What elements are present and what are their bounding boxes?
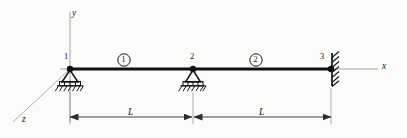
element-1-label: 1 [122, 56, 126, 64]
node-1-dot[interactable] [67, 66, 73, 72]
node-3-label: 3 [320, 52, 324, 61]
node-1-ground-hatching [55, 86, 83, 91]
beam-diagram-figure: 1 2 3 1 2 y x z L L [0, 0, 407, 138]
dimension-label-span-2: L [259, 108, 264, 118]
y-axis-label: y [72, 9, 76, 19]
dimension-label-span-1: L [128, 108, 133, 118]
x-axis-label: x [382, 62, 386, 72]
node-3-dot[interactable] [328, 66, 334, 72]
z-axis-label: z [22, 115, 26, 125]
dimension-lines [70, 88, 331, 124]
element-2-label: 2 [254, 56, 258, 64]
node-2-ground-hatching [179, 86, 206, 91]
node-2-label: 2 [190, 52, 194, 61]
node-1-label: 1 [64, 52, 68, 61]
beam-diagram-canvas [0, 0, 407, 138]
node-2-dot[interactable] [190, 66, 196, 72]
